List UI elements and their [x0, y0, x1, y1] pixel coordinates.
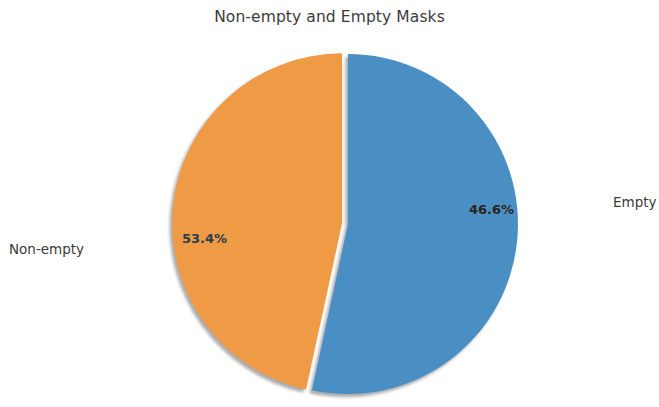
pie-slice-empty[interactable] [172, 53, 342, 389]
pie-percent-empty: 46.6% [469, 202, 514, 217]
pie-chart-figure: Non-empty and Empty Masks Non-empty Empt… [0, 0, 659, 407]
pie-chart-canvas [0, 0, 659, 407]
pie-percent-nonempty: 53.4% [182, 231, 227, 246]
pie-label-nonempty: Non-empty [9, 241, 84, 257]
pie-slices [172, 53, 518, 394]
pie-label-empty: Empty [613, 194, 657, 210]
pie-slice-nonempty[interactable] [312, 54, 518, 394]
